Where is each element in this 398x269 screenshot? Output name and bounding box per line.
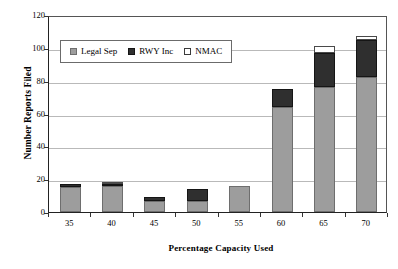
x-tick-mark [302, 213, 303, 217]
y-tick-label: 40 [15, 142, 45, 151]
x-tick-mark [48, 213, 49, 217]
x-tick-label: 65 [303, 218, 343, 228]
x-tick-label: 60 [261, 218, 301, 228]
x-tick-label: 70 [346, 218, 386, 228]
y-tick-label: 100 [15, 44, 45, 53]
gridline [49, 181, 386, 182]
gridline [49, 116, 386, 117]
bar-segment-rwy-inc [144, 197, 165, 200]
x-tick-mark [345, 213, 346, 217]
legend-item-legal-sep: Legal Sep [70, 46, 117, 56]
bar-stack [229, 15, 250, 212]
bar-segment-nmac [314, 46, 335, 53]
bar-stack [272, 15, 293, 212]
bar-segment-legal-sep [144, 201, 165, 212]
x-tick-mark [90, 213, 91, 217]
bar-segment-legal-sep [314, 87, 335, 212]
y-tick-label: 60 [15, 110, 45, 119]
x-tick-label: 40 [92, 218, 132, 228]
bar-segment-rwy-inc [187, 189, 208, 200]
y-tick-label: 0 [15, 208, 45, 217]
bar-segment-legal-sep [60, 187, 81, 212]
legend-swatch-icon [70, 48, 77, 55]
bar-stack [356, 15, 377, 212]
x-tick-mark [175, 213, 176, 217]
x-tick-mark [133, 213, 134, 217]
bar-segment-legal-sep [102, 186, 123, 212]
y-tick-label: 80 [15, 77, 45, 86]
x-tick-label: 55 [219, 218, 259, 228]
bar-segment-legal-sep [187, 201, 208, 212]
bar-segment-rwy-inc [314, 53, 335, 87]
y-tick-label: 120 [15, 11, 45, 20]
x-tick-mark [218, 213, 219, 217]
bar-segment-rwy-inc [356, 40, 377, 78]
bar-segment-legal-sep [356, 77, 377, 212]
x-axis-title: Percentage Capacity Used [47, 243, 395, 253]
x-tick-label: 45 [134, 218, 174, 228]
bar-segment-rwy-inc [60, 184, 81, 187]
gridline [49, 83, 386, 84]
legend-label: NMAC [195, 46, 222, 56]
bar-stack [314, 15, 335, 212]
bar-chart: Number Reports Filed 020406080100120 354… [0, 0, 398, 269]
legend-item-rwy-inc: RWY Inc [128, 46, 173, 56]
legend-item-nmac: NMAC [184, 46, 222, 56]
bar-segment-nmac [102, 182, 123, 184]
legend-swatch-icon [184, 48, 191, 55]
bar-segment-nmac [356, 36, 377, 39]
gridline [49, 148, 386, 149]
x-tick-label: 35 [49, 218, 89, 228]
legend-label: RWY Inc [139, 46, 173, 56]
x-tick-mark [260, 213, 261, 217]
y-tick-label: 20 [15, 175, 45, 184]
legend-label: Legal Sep [81, 46, 117, 56]
chart-legend: Legal SepRWY IncNMAC [60, 40, 232, 63]
x-tick-label: 50 [176, 218, 216, 228]
legend-swatch-icon [128, 48, 135, 55]
bar-segment-legal-sep [272, 107, 293, 212]
bar-segment-legal-sep [229, 186, 250, 212]
x-tick-mark [387, 213, 388, 217]
bar-segment-rwy-inc [272, 89, 293, 107]
